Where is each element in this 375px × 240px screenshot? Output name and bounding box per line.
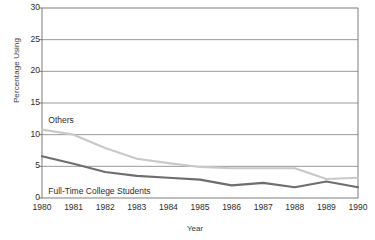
x-tick-label: 1990 — [338, 202, 375, 212]
series-line-others — [42, 130, 358, 179]
x-axis-label: Year — [40, 224, 350, 233]
series-label-others: Others — [48, 115, 74, 125]
series-line-full-time-college-students — [42, 156, 358, 187]
data-series-lines — [42, 130, 358, 188]
y-tick-label: 5 — [18, 161, 40, 170]
y-tick-label: 0 — [18, 193, 40, 202]
y-tick-label: 15 — [18, 98, 40, 107]
y-tick-label: 25 — [18, 35, 40, 44]
y-tick-label: 20 — [18, 66, 40, 75]
y-tick-label: 30 — [18, 3, 40, 12]
series-label-full-time-college-students: Full-Time College Students — [48, 186, 150, 196]
gridlines — [42, 40, 358, 167]
y-tick-label: 10 — [18, 130, 40, 139]
chart-container: Percentage Using Year 051015202530 19801… — [0, 0, 375, 240]
